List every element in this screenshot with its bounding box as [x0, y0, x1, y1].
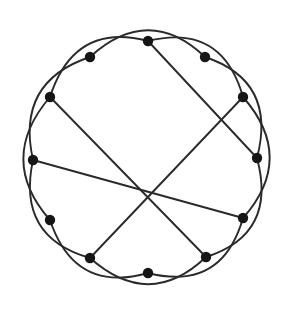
- graph-figure: circular graph drawing: [0, 0, 292, 312]
- graph-vertex: [85, 52, 95, 62]
- graph-vertex: [45, 92, 55, 102]
- graph-vertex: [238, 213, 248, 223]
- graph-vertex: [238, 92, 248, 102]
- graph-vertex: [45, 215, 55, 225]
- graph-vertex: [85, 253, 95, 263]
- graph-vertex: [252, 153, 262, 163]
- figure-background: [0, 0, 292, 312]
- graph-vertex: [28, 155, 38, 165]
- graph-vertex: [143, 268, 153, 278]
- graph-vertex: [200, 52, 210, 62]
- graph-vertex: [201, 252, 211, 262]
- graph-vertex: [143, 36, 153, 46]
